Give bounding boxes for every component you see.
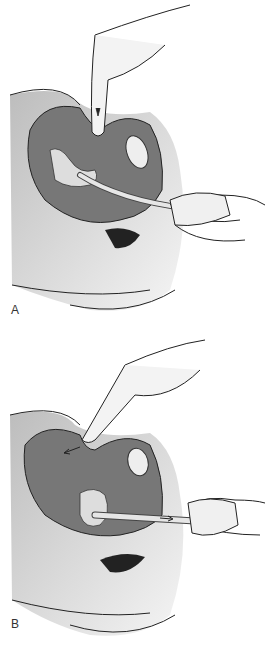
panel-b: B xyxy=(0,325,279,650)
panel-a: A xyxy=(0,0,279,325)
panel-label-a: A xyxy=(11,303,19,317)
panel-label-b: B xyxy=(11,617,19,631)
illustration-b xyxy=(0,325,279,650)
illustration-a xyxy=(0,0,279,325)
